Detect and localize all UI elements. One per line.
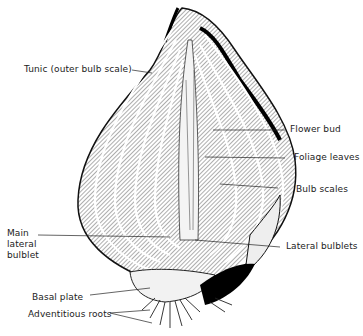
roots: [142, 298, 232, 328]
label-tunic: Tunic (outer bulb scale): [24, 64, 132, 75]
label-basal-plate: Basal plate: [32, 292, 83, 303]
label-bulb-scales: Bulb scales: [296, 184, 348, 195]
bulb-section: [78, 8, 296, 305]
label-lateral-bulblets: Lateral bulblets: [286, 241, 358, 252]
label-main-lateral-bulblet: Main lateral bulblet: [7, 228, 39, 261]
label-adventitious-roots: Adventitious roots: [28, 309, 112, 320]
label-flower-bud: Flower bud: [290, 124, 341, 135]
onion-bulb-diagram: [0, 0, 363, 336]
label-foliage-leaves: Foliage leaves: [294, 152, 360, 163]
